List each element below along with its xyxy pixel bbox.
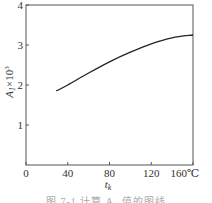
y-axis-title: A1×103 [3,66,17,99]
y-tick-label: 1 [18,119,24,131]
y-axis-ticks: 1234 [18,0,30,131]
data-curve [56,35,193,91]
y-tick-label: 4 [18,0,24,11]
x-axis-title: tk [105,178,112,190]
y-tick-label: 2 [18,79,24,91]
line-chart: 1234 04080120160℃ tk A1×103 [0,0,212,190]
axes-box [26,5,193,165]
x-tick-label: 120 [143,167,160,179]
plot-frame [26,5,193,165]
x-tick-label: 160℃ [171,167,200,179]
y-tick-label: 3 [18,39,24,51]
x-tick-label: 0 [23,167,29,179]
figure-caption: 图 7-1 计算 A₁ 值的图线 [0,193,212,203]
x-tick-label: 40 [62,167,74,179]
